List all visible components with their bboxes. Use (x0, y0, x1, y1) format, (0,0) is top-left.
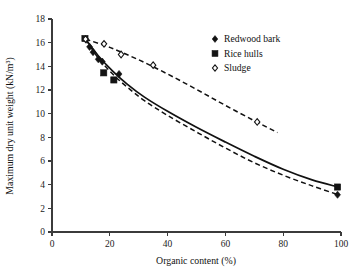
x-tick-label: 100 (334, 239, 349, 249)
data-point (334, 184, 340, 190)
legend-marker-filled-square (212, 51, 218, 57)
y-tick-label: 14 (36, 62, 46, 72)
y-tick-label: 0 (40, 227, 45, 237)
legend-label: Redwood bark (224, 33, 280, 44)
data-point (111, 77, 117, 83)
y-axis-title: Maximum dry unit weight (kN/m³) (4, 57, 16, 194)
y-tick-label: 4 (40, 180, 45, 190)
data-point (101, 70, 107, 76)
y-tick-label: 18 (36, 14, 46, 24)
x-tick-label: 0 (50, 239, 55, 249)
y-tick-label: 6 (40, 156, 45, 166)
x-tick-label: 40 (163, 239, 173, 249)
legend-label: Sludge (224, 62, 251, 73)
legend-label: Rice hulls (224, 48, 263, 59)
chart-figure: 024681012141618 020406080100 Redwood bar… (0, 0, 356, 270)
x-tick-label: 80 (278, 239, 288, 249)
x-tick-label: 20 (105, 239, 115, 249)
x-tick-label: 60 (221, 239, 231, 249)
organic-content-vs-dry-unit-weight-chart: 024681012141618 020406080100 Redwood bar… (0, 0, 356, 270)
y-tick-label: 16 (36, 38, 46, 48)
y-tick-label: 2 (40, 204, 45, 214)
y-tick-label: 10 (36, 109, 46, 119)
chart-background (0, 0, 356, 270)
x-axis-title: Organic content (%) (156, 255, 236, 267)
y-tick-label: 8 (40, 133, 45, 143)
y-tick-label: 12 (36, 85, 46, 95)
